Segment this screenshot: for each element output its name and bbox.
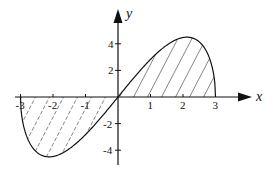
graph-canvas: x y -3-2-1123 42-2-4	[0, 0, 275, 173]
x-tick-label: 3	[213, 99, 219, 111]
y-axis-arrow-icon	[114, 9, 123, 23]
y-tick-label: 2	[108, 64, 114, 76]
y-tick-label: -2	[103, 118, 112, 130]
x-tick-label: 1	[148, 99, 154, 111]
x-tick-label: 2	[180, 99, 186, 111]
shaded-region-negative	[0, 0, 275, 173]
x-axis-label: x	[255, 89, 263, 104]
y-tick-label: 4	[108, 38, 114, 50]
y-tick-label: -4	[103, 144, 113, 156]
x-tick-label: -3	[16, 99, 26, 111]
function-graph: x y -3-2-1123 42-2-4	[0, 0, 275, 173]
y-axis-label: y	[124, 6, 133, 21]
x-tick-label: -2	[48, 99, 57, 111]
shaded-region-positive	[0, 0, 275, 173]
x-axis-arrow-icon	[238, 93, 252, 102]
x-tick-label: -1	[81, 99, 90, 111]
